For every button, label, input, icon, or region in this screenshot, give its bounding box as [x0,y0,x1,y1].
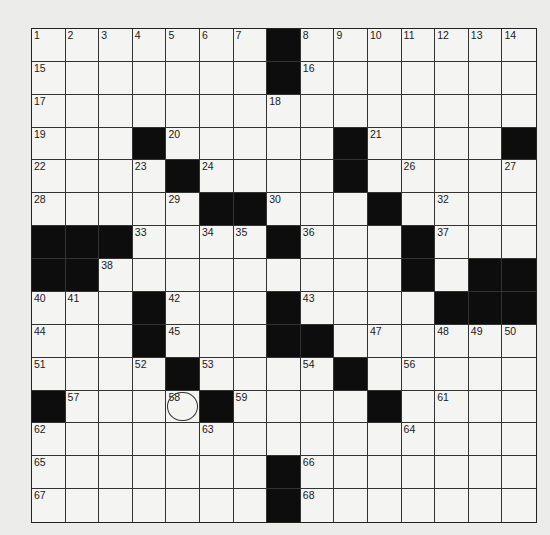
grid-cell[interactable] [200,95,234,128]
grid-cell[interactable] [368,358,402,391]
grid-cell[interactable] [469,226,503,259]
grid-cell[interactable] [368,259,402,292]
grid-cell[interactable] [334,62,368,95]
grid-cell[interactable] [267,259,301,292]
grid-cell[interactable]: 32 [435,193,469,226]
grid-cell[interactable] [469,128,503,161]
grid-cell[interactable]: 43 [301,292,335,325]
grid-cell[interactable] [368,226,402,259]
grid-cell[interactable] [368,423,402,456]
grid-cell[interactable] [267,358,301,391]
grid-cell[interactable] [368,95,402,128]
grid-cell[interactable]: 24 [200,160,234,193]
grid-cell[interactable]: 30 [267,193,301,226]
grid-cell[interactable]: 11 [402,29,436,62]
grid-cell[interactable]: 57 [66,391,100,424]
grid-cell[interactable] [402,489,436,522]
grid-cell[interactable] [133,456,167,489]
grid-cell[interactable] [99,193,133,226]
grid-cell[interactable] [368,292,402,325]
grid-cell[interactable] [402,456,436,489]
grid-cell[interactable]: 17 [32,95,66,128]
grid-cell[interactable]: 22 [32,160,66,193]
grid-cell[interactable] [133,193,167,226]
grid-cell[interactable] [435,259,469,292]
grid-cell[interactable] [66,325,100,358]
grid-cell[interactable] [469,160,503,193]
grid-cell[interactable] [200,456,234,489]
grid-cell[interactable]: 33 [133,226,167,259]
grid-cell[interactable] [234,423,268,456]
grid-cell[interactable] [234,489,268,522]
grid-cell[interactable] [234,456,268,489]
grid-cell[interactable]: 48 [435,325,469,358]
grid-cell[interactable] [200,62,234,95]
grid-cell[interactable] [166,423,200,456]
grid-cell[interactable]: 18 [267,95,301,128]
grid-cell[interactable] [334,292,368,325]
grid-cell[interactable]: 53 [200,358,234,391]
grid-cell[interactable]: 7 [234,29,268,62]
grid-cell[interactable]: 66 [301,456,335,489]
grid-cell[interactable]: 28 [32,193,66,226]
grid-cell[interactable]: 8 [301,29,335,62]
grid-cell[interactable] [133,423,167,456]
grid-cell[interactable] [402,95,436,128]
grid-cell[interactable]: 14 [502,29,536,62]
grid-cell[interactable] [469,489,503,522]
grid-cell[interactable] [502,391,536,424]
grid-cell[interactable] [334,226,368,259]
grid-cell[interactable]: 49 [469,325,503,358]
grid-cell[interactable] [502,423,536,456]
grid-cell[interactable]: 2 [66,29,100,62]
grid-cell[interactable]: 47 [368,325,402,358]
grid-cell[interactable] [99,95,133,128]
grid-cell[interactable] [234,259,268,292]
grid-cell[interactable] [502,358,536,391]
grid-cell[interactable]: 67 [32,489,66,522]
grid-cell[interactable] [133,489,167,522]
grid-cell[interactable] [435,128,469,161]
grid-cell[interactable] [234,62,268,95]
grid-cell[interactable] [334,391,368,424]
grid-cell[interactable] [402,62,436,95]
grid-cell[interactable] [99,292,133,325]
grid-cell[interactable]: 10 [368,29,402,62]
grid-cell[interactable] [502,456,536,489]
grid-cell[interactable]: 40 [32,292,66,325]
grid-cell[interactable] [402,292,436,325]
grid-cell[interactable]: 12 [435,29,469,62]
grid-cell[interactable]: 35 [234,226,268,259]
grid-cell[interactable] [368,62,402,95]
grid-cell[interactable] [234,292,268,325]
grid-cell[interactable]: 64 [402,423,436,456]
grid-cell[interactable] [66,62,100,95]
grid-cell[interactable]: 50 [502,325,536,358]
grid-cell[interactable]: 34 [200,226,234,259]
grid-cell[interactable] [469,358,503,391]
grid-cell[interactable] [66,358,100,391]
grid-cell[interactable] [99,423,133,456]
grid-cell[interactable] [402,193,436,226]
grid-cell[interactable] [66,489,100,522]
grid-cell[interactable] [166,456,200,489]
grid-cell[interactable] [469,456,503,489]
grid-cell[interactable]: 58 [166,391,200,424]
grid-cell[interactable] [368,160,402,193]
grid-cell[interactable]: 37 [435,226,469,259]
grid-cell[interactable]: 19 [32,128,66,161]
grid-cell[interactable] [334,95,368,128]
grid-cell[interactable] [435,160,469,193]
grid-cell[interactable]: 63 [200,423,234,456]
grid-cell[interactable] [66,128,100,161]
grid-cell[interactable] [200,325,234,358]
grid-cell[interactable] [502,62,536,95]
grid-cell[interactable] [234,358,268,391]
grid-cell[interactable] [66,456,100,489]
grid-cell[interactable] [200,128,234,161]
grid-cell[interactable] [267,391,301,424]
grid-cell[interactable]: 21 [368,128,402,161]
grid-cell[interactable] [133,391,167,424]
grid-cell[interactable] [133,259,167,292]
grid-cell[interactable] [99,62,133,95]
